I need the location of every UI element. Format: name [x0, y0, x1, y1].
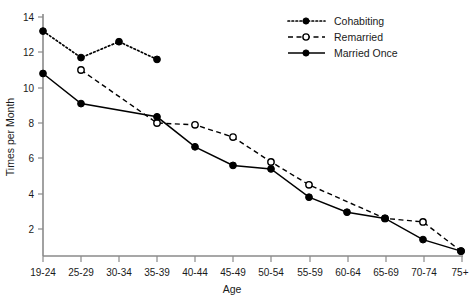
- data-point: [154, 56, 161, 63]
- y-axis-title: Times per Month: [4, 98, 16, 177]
- series-remarried: [78, 67, 464, 255]
- x-tick-label-40-44: 40-44: [182, 267, 208, 278]
- x-tick-label-30-34: 30-34: [106, 267, 132, 278]
- y-tick-label-10: 10: [23, 83, 35, 94]
- y-tick-label-4: 4: [28, 189, 34, 200]
- legend-label-cohabiting: Cohabiting: [334, 15, 384, 27]
- data-point: [306, 194, 313, 201]
- data-point: [382, 215, 389, 222]
- x-tick-label-50-54: 50-54: [258, 267, 284, 278]
- data-point: [420, 236, 427, 243]
- legend-label-married-once: Married Once: [334, 47, 398, 59]
- x-axis-title: Age: [223, 283, 242, 295]
- data-point: [154, 113, 161, 120]
- y-tick-label-12: 12: [23, 47, 35, 58]
- y-tick-group: 14 12 10 8 6 4 2: [23, 12, 43, 235]
- data-point: [268, 159, 274, 165]
- data-point: [192, 143, 199, 150]
- data-point: [344, 209, 351, 216]
- x-tick-label-65-69: 65-69: [373, 267, 399, 278]
- series-path: [43, 74, 461, 252]
- data-point: [230, 134, 236, 140]
- x-tick-label-70-74: 70-74: [411, 267, 437, 278]
- y-tick-label-8: 8: [28, 118, 34, 129]
- x-tick-label-35-39: 35-39: [144, 267, 170, 278]
- data-point: [268, 166, 275, 173]
- legend-marker-filled-circle: [303, 50, 309, 56]
- line-chart: 14 12 10 8 6 4 2 19-24 25-29 30-34 35-3: [0, 0, 472, 302]
- x-tick-label-19-24: 19-24: [30, 267, 56, 278]
- series-layer: [40, 28, 465, 255]
- data-point: [154, 120, 160, 126]
- legend-label-remarried: Remarried: [334, 31, 383, 43]
- data-point: [230, 162, 237, 169]
- data-point: [78, 54, 85, 61]
- x-tick-label-45-49: 45-49: [220, 267, 246, 278]
- data-point: [40, 70, 47, 77]
- legend-marker-filled-circle: [303, 18, 309, 24]
- x-tick-label-75plus: 75+: [452, 267, 469, 278]
- legend-marker-open-circle: [303, 34, 309, 40]
- x-tick-label-55-59: 55-59: [297, 267, 323, 278]
- y-tick-label-14: 14: [23, 12, 35, 23]
- y-tick-label-2: 2: [28, 224, 34, 235]
- data-point: [78, 67, 84, 73]
- series-path: [43, 31, 157, 59]
- x-tick-group: 19-24 25-29 30-34 35-39 40-44 45-49 50-5…: [30, 256, 468, 278]
- data-point: [116, 38, 123, 45]
- chart-container: 14 12 10 8 6 4 2 19-24 25-29 30-34 35-3: [0, 0, 472, 302]
- data-point: [78, 100, 85, 107]
- series-married-once: [40, 70, 465, 254]
- data-point: [420, 219, 426, 225]
- legend-item-remarried: Remarried: [288, 31, 383, 43]
- legend: Cohabiting Remarried Married Once: [288, 15, 398, 59]
- data-point: [40, 28, 47, 35]
- x-tick-label-25-29: 25-29: [68, 267, 94, 278]
- legend-item-married-once: Married Once: [288, 47, 398, 59]
- y-tick-label-6: 6: [28, 153, 34, 164]
- data-point: [306, 182, 312, 188]
- x-tick-label-60-64: 60-64: [335, 267, 361, 278]
- series-cohabiting: [40, 28, 161, 63]
- data-point: [192, 122, 198, 128]
- data-point: [458, 248, 465, 255]
- legend-item-cohabiting: Cohabiting: [288, 15, 384, 27]
